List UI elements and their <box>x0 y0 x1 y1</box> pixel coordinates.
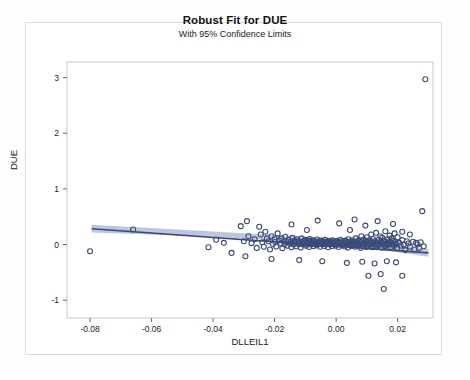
x-tick-label: -0.04 <box>203 324 222 334</box>
y-tick-label: 3 <box>37 73 59 83</box>
chart-figure: Robust Fit for DUE With 95% Confidence L… <box>0 0 470 380</box>
x-tick-label: 0.00 <box>328 324 345 334</box>
y-tick-label: -1 <box>37 295 59 305</box>
scatter-plot-canvas <box>0 0 470 380</box>
x-tick-label: -0.02 <box>265 324 284 334</box>
x-tick-label: 0.02 <box>389 324 406 334</box>
y-tick-label: 0 <box>37 240 59 250</box>
y-tick-label: 1 <box>37 184 59 194</box>
x-tick-label: -0.08 <box>80 324 99 334</box>
x-tick-label: -0.06 <box>142 324 161 334</box>
plot-area-border <box>67 62 433 318</box>
y-tick-label: 2 <box>37 128 59 138</box>
